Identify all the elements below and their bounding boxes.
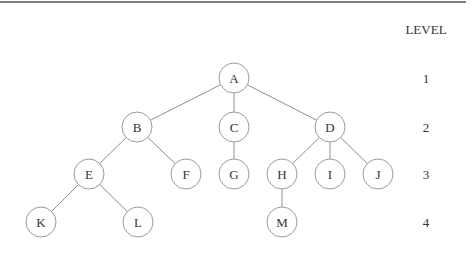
edge-d-h [293,137,320,163]
node-label: F [182,167,189,182]
edge-a-b [150,85,220,120]
node-label: J [375,167,380,182]
tree-node-j: J [363,159,393,189]
node-label: G [229,167,238,182]
node-label: A [229,71,239,86]
tree-node-f: F [171,159,201,189]
node-label: H [277,167,286,182]
tree-node-g: G [219,159,249,189]
node-label: L [134,215,142,230]
tree-node-a: A [219,63,249,93]
node-label: I [328,167,332,182]
tree-node-i: I [315,159,345,189]
tree-diagram: LEVEL ABCDEFGHIJKLM 1234 [0,0,476,261]
edges-layer [52,85,368,212]
tree-node-b: B [122,112,152,142]
edge-b-f [148,137,175,163]
node-label: D [325,120,334,135]
node-label: M [276,215,288,230]
level-header: LEVEL [405,22,446,37]
edge-d-j [341,137,368,163]
level-number-2: 2 [423,120,430,135]
node-label: E [85,167,93,182]
edge-e-k [52,185,79,212]
node-label: B [133,120,142,135]
nodes-layer: ABCDEFGHIJKLM [26,63,393,237]
level-number-3: 3 [423,167,430,182]
node-label: K [36,215,46,230]
edge-a-d [247,85,316,120]
level-labels: 1234 [423,71,430,230]
tree-node-l: L [123,207,153,237]
tree-node-h: H [267,159,297,189]
tree-node-c: C [219,112,249,142]
tree-node-k: K [26,207,56,237]
edge-e-l [100,184,128,211]
node-label: C [230,120,239,135]
edge-b-e [100,137,127,163]
tree-node-d: D [315,112,345,142]
level-number-4: 4 [423,215,430,230]
tree-diagram-svg: LEVEL ABCDEFGHIJKLM 1234 [0,0,476,261]
tree-node-e: E [74,159,104,189]
tree-node-m: M [267,207,297,237]
level-number-1: 1 [423,71,430,86]
